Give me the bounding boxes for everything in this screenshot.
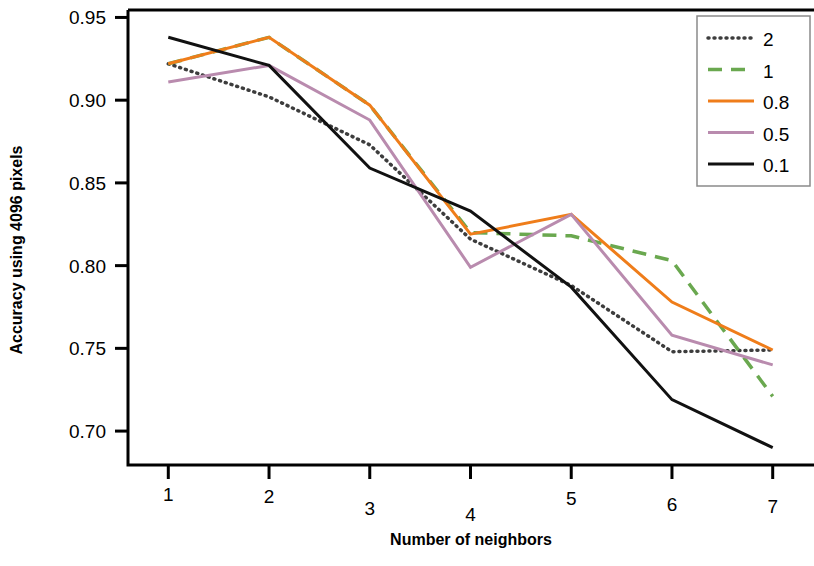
x-axis-tick-label: 7 <box>767 496 778 517</box>
legend-label-0-1: 0.1 <box>763 155 789 176</box>
x-axis-tick-label: 3 <box>364 498 375 519</box>
x-axis-tick-label: 1 <box>163 484 174 505</box>
y-axis-title: Accuracy using 4096 pixels <box>8 145 25 354</box>
legend-label-2: 2 <box>763 29 774 50</box>
x-axis-tick-label: 5 <box>566 488 577 509</box>
y-axis-tick-label: 0.95 <box>69 7 106 28</box>
legend-label-0-5: 0.5 <box>763 124 789 145</box>
y-axis-tick-label: 0.90 <box>69 90 106 111</box>
x-axis-tick-label: 2 <box>264 486 275 507</box>
x-axis-tick-label: 6 <box>667 494 678 515</box>
legend-label-0-8: 0.8 <box>763 92 789 113</box>
chart-figure: 0.700.750.800.850.900.95 1234567 210.80.… <box>0 0 814 566</box>
x-axis-tick-label: 4 <box>465 504 476 525</box>
y-axis-tick-label: 0.70 <box>69 421 106 442</box>
chart-legend: 210.80.50.1 <box>697 16 810 186</box>
y-axis-tick-label: 0.75 <box>69 338 106 359</box>
legend-label-1: 1 <box>763 61 774 82</box>
y-axis-tick-label: 0.80 <box>69 256 106 277</box>
x-axis-title: Number of neighbors <box>390 531 552 548</box>
chart-background <box>0 0 814 566</box>
line-chart: 0.700.750.800.850.900.95 1234567 210.80.… <box>0 0 814 566</box>
y-axis-tick-label: 0.85 <box>69 173 106 194</box>
